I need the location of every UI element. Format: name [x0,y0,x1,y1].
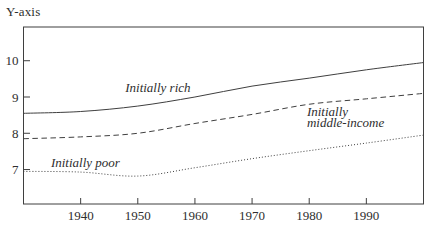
x-tick-label: 1960 [182,208,208,223]
y-tick-label: 7 [12,162,19,177]
series-annotation: Initially rich [124,80,190,95]
x-tick-label: 1990 [353,208,379,223]
y-tick-label: 9 [12,90,19,105]
x-tick-label: 1950 [125,208,151,223]
x-tick-label: 1980 [296,208,322,223]
y-tick-label: 10 [6,53,19,68]
series-line-initially-rich [24,63,424,114]
y-tick-label: 8 [12,126,19,141]
series-annotation: Initially poor [50,155,121,170]
x-tick-label: 1970 [239,208,265,223]
series-annotation: Initiallymiddle-income [306,104,384,131]
chart-canvas: 78910194019501960197019801990Initially r… [0,0,431,234]
x-tick-label: 1940 [68,208,94,223]
line-chart-figure: Y-axis 78910194019501960197019801990Init… [0,0,431,234]
